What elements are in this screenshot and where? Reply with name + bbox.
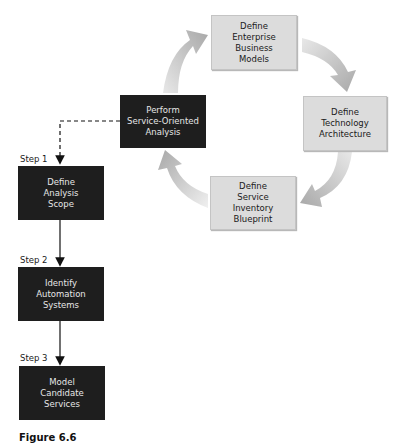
step-3-label: Step 3 [20,353,47,363]
cycle-arrow-to-inventory [300,152,352,207]
service-inventory-box: Define Service Inventory Blueprint [210,176,296,230]
step-1-label: Step 1 [20,154,47,164]
figure-caption: Figure 6.6 [19,432,76,443]
dashed-connector [60,121,120,160]
step-3-box-label: Model Candidate Services [40,377,83,410]
cycle-arrow-to-perform [158,150,208,208]
cycle-arrow-to-technology [302,38,356,92]
step-2-label: Step 2 [20,255,47,265]
enterprise-models-label: Define Enterprise Business Models [232,21,276,65]
step-1-box: Define Analysis Scope [18,166,104,220]
step-2-box-label: Identify Automation Systems [36,278,86,311]
step-3-box: Model Candidate Services [19,366,105,420]
step-1-box-label: Define Analysis Scope [43,177,78,210]
service-inventory-label: Define Service Inventory Blueprint [233,181,274,225]
enterprise-models-box: Define Enterprise Business Models [211,15,297,70]
step-2-box: Identify Automation Systems [18,267,104,321]
technology-architecture-box: Define Technology Architecture [303,96,387,151]
perform-analysis-box: Perform Service-Oriented Analysis [120,95,206,148]
perform-analysis-label: Perform Service-Oriented Analysis [127,105,199,138]
cycle-arrow-to-enterprise [163,30,208,93]
technology-architecture-label: Define Technology Architecture [319,107,371,140]
